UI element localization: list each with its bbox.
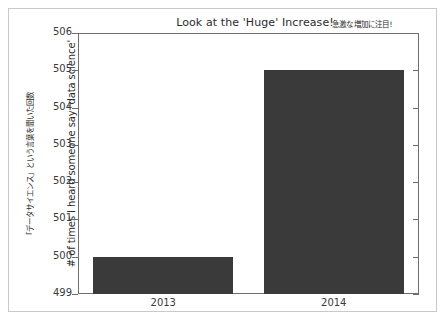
chart-title-annotation-japanese: 急激な増加に注目! [332, 18, 393, 29]
bar [93, 257, 233, 294]
x-axis-tick-label: 2014 [274, 297, 394, 308]
y-axis-label: # of times I heard someone say 'data sci… [66, 19, 77, 289]
y-axis-tick-label: 503 [44, 138, 72, 149]
y-axis-tick-mark [72, 182, 78, 183]
y-axis-tick-mark [72, 145, 78, 146]
y-axis-tick-label: 500 [44, 250, 72, 261]
chart-title: Look at the 'Huge' Increase! [150, 16, 360, 29]
y-axis-tick-mark [72, 108, 78, 109]
y-axis-tick-mark-right [413, 145, 419, 146]
y-axis-tick-mark-right [413, 70, 419, 71]
y-axis-tick-mark-right [413, 33, 419, 34]
y-axis-tick-mark-right [413, 294, 419, 295]
y-axis-tick-mark [72, 219, 78, 220]
y-axis-label-japanese: 「データサイエンス」という言葉を聞いた回数 [24, 51, 35, 281]
y-axis-tick-mark [72, 70, 78, 71]
y-axis-tick-label: 505 [44, 63, 72, 74]
y-axis-tick-label: 502 [44, 175, 72, 186]
y-axis-tick-label: 499 [44, 287, 72, 298]
x-axis-tick-label: 2013 [103, 297, 223, 308]
y-axis-tick-label: 501 [44, 212, 72, 223]
y-axis-tick-mark [72, 33, 78, 34]
y-axis-tick-mark-right [413, 182, 419, 183]
y-axis-tick-mark-right [413, 219, 419, 220]
bar-chart-figure: Look at the 'Huge' Increase! 急激な増加に注目! #… [0, 0, 446, 326]
y-axis-tick-label: 506 [44, 26, 72, 37]
y-axis-tick-mark-right [413, 108, 419, 109]
y-axis-tick-label: 504 [44, 101, 72, 112]
bar [264, 70, 404, 294]
y-axis-tick-mark [72, 294, 78, 295]
y-axis-tick-mark-right [413, 257, 419, 258]
y-axis-tick-mark [72, 257, 78, 258]
